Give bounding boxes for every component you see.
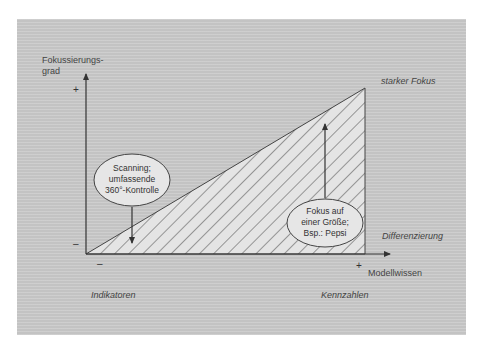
label-differenzierung: Differenzierung <box>382 231 443 242</box>
focus-line3: Bsp.: Pepsi <box>287 228 363 239</box>
y-axis-label: Fokussierungs- grad <box>42 55 104 77</box>
focus-diagram <box>0 0 479 352</box>
label-starker-fokus: starker Fokus <box>381 76 436 87</box>
y-axis-label-line1: Fokussierungs- <box>42 55 104 66</box>
scanning-line1: Scanning; <box>94 163 170 174</box>
scanning-bubble-text: Scanning; umfassende 360°-Kontrolle <box>94 163 170 196</box>
y-axis-minus: – <box>73 238 79 249</box>
focus-line1: Fokus auf <box>287 206 363 217</box>
focus-line2: einer Größe; <box>287 217 363 228</box>
scanning-line3: 360°-Kontrolle <box>94 185 170 196</box>
x-axis-minus: – <box>97 258 103 269</box>
focus-bubble-text: Fokus auf einer Größe; Bsp.: Pepsi <box>287 206 363 239</box>
y-axis-label-line2: grad <box>42 66 104 77</box>
label-kennzahlen: Kennzahlen <box>321 290 369 301</box>
x-axis-label: Modellwissen <box>368 268 422 279</box>
label-indikatoren: Indikatoren <box>91 290 136 301</box>
x-axis-plus: + <box>356 260 362 271</box>
y-axis-plus: + <box>73 84 79 95</box>
scanning-line2: umfassende <box>94 174 170 185</box>
